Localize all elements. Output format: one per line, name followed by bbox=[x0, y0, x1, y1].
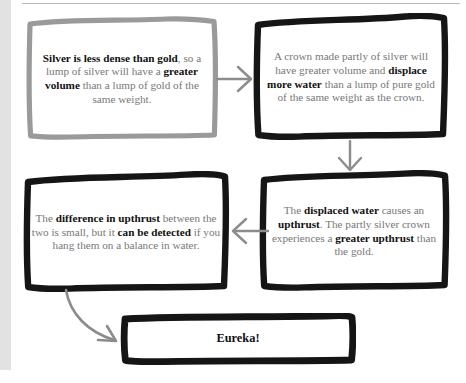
flowchart-box-difference: The difference in upthrust between the t… bbox=[22, 171, 230, 294]
flowchart-box-crown-text: A crown made partly of silver will have … bbox=[253, 50, 449, 105]
flowchart-box-silver: Silver is less dense than gold, so a lum… bbox=[26, 15, 218, 143]
flowchart-box-crown: A crown made partly of silver will have … bbox=[253, 13, 449, 142]
flowchart-box-upthrust: The displaced water causes an upthrust. … bbox=[258, 170, 450, 293]
page-left-gutter bbox=[0, 0, 11, 370]
flowchart-box-eureka: Eureka! bbox=[120, 313, 356, 365]
flowchart-box-eureka-text: Eureka! bbox=[207, 331, 268, 346]
diagram-page: Silver is less dense than gold, so a lum… bbox=[0, 0, 466, 383]
flowchart-box-silver-text: Silver is less dense than gold, so a lum… bbox=[26, 52, 218, 107]
flowchart-box-difference-text: The difference in upthrust between the t… bbox=[22, 212, 230, 253]
page-top-rule bbox=[22, 3, 460, 4]
flowchart-box-upthrust-text: The displaced water causes an upthrust. … bbox=[258, 204, 450, 259]
